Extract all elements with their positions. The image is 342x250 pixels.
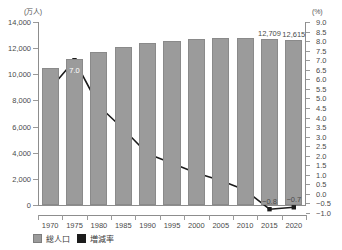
right-axis-tick-label: 6.0	[316, 75, 326, 84]
right-axis-tick-mark	[306, 32, 310, 33]
legend-label-population: 総人口	[46, 233, 70, 244]
right-axis-tick-mark	[306, 156, 310, 157]
left-axis-tick-label: 14,000	[8, 18, 31, 27]
left-axis-tick-mark	[33, 153, 38, 154]
bar-1970[interactable]	[42, 68, 59, 205]
legend-item-population: 総人口	[33, 233, 70, 244]
left-axis-tick-mark	[33, 100, 38, 101]
right-axis-tick-mark	[306, 127, 310, 128]
left-axis-tick-mark	[33, 205, 38, 206]
bar-2010[interactable]	[237, 38, 254, 205]
right-axis-tick-label: 2.5	[316, 142, 326, 151]
x-axis-label-2015: 2015	[261, 221, 278, 230]
x-axis-label-2010: 2010	[237, 221, 254, 230]
x-axis-tick-mark	[38, 215, 39, 220]
right-axis-tick-label: −1.0	[316, 209, 331, 218]
legend-swatch-population-icon	[33, 234, 42, 243]
x-axis-label-1995: 1995	[164, 221, 181, 230]
x-axis-tick-mark	[209, 215, 210, 220]
right-axis-tick-mark	[306, 98, 310, 99]
right-axis-tick-label: 8.5	[316, 27, 326, 36]
right-axis: 9.08.58.07.57.06.56.05.55.04.54.03.53.02…	[310, 0, 342, 250]
legend-label-rate: 増減率	[90, 233, 114, 244]
left-axis-tick-label: 6,000	[12, 122, 31, 131]
right-axis-tick-label: 3.0	[316, 132, 326, 141]
right-axis-tick-label: 1.5	[316, 161, 326, 170]
rate-value-label-2020: −0.7	[286, 195, 301, 204]
right-axis-tick-label: 4.5	[316, 103, 326, 112]
right-axis-tick-mark	[306, 79, 310, 80]
population-chart: (万人) (%) 14,00012,00010,0008,0006,0004,0…	[0, 0, 342, 250]
right-axis-tick-label: 4.0	[316, 113, 326, 122]
bar-1995[interactable]	[163, 41, 180, 205]
left-axis-tick-label: 12,000	[8, 44, 31, 53]
right-axis-tick-mark	[306, 70, 310, 71]
right-axis-tick-mark	[306, 89, 310, 90]
x-axis-label-2005: 2005	[212, 221, 229, 230]
x-axis-tick-mark	[87, 215, 88, 220]
right-axis-tick-label: −0.5	[316, 199, 331, 208]
x-axis-tick-mark	[233, 215, 234, 220]
legend-item-rate: 増減率	[77, 233, 114, 244]
x-axis-label-2020: 2020	[285, 221, 302, 230]
x-axis-tick-mark	[282, 215, 283, 220]
x-axis-label-2000: 2000	[188, 221, 205, 230]
right-axis-tick-mark	[306, 41, 310, 42]
right-axis-tick-mark	[306, 137, 310, 138]
rate-value-label-2015: −0.8	[262, 197, 277, 206]
right-axis-tick-label: 2.0	[316, 151, 326, 160]
rate-value-label-1975: 7.0	[69, 66, 79, 75]
right-axis-tick-mark	[306, 175, 310, 176]
left-axis-tick-label: 8,000	[12, 96, 31, 105]
bar-1990[interactable]	[139, 43, 156, 205]
bar-1975[interactable]	[66, 59, 83, 205]
right-axis-tick-mark	[306, 118, 310, 119]
left-axis: 14,00012,00010,0008,0006,0004,0002,0000	[0, 0, 34, 250]
left-axis-tick-mark	[33, 48, 38, 49]
right-axis-tick-mark	[306, 146, 310, 147]
x-axis-tick-mark	[111, 215, 112, 220]
right-axis-tick-label: 7.0	[316, 56, 326, 65]
bar-1985[interactable]	[115, 47, 132, 205]
right-axis-tick-mark	[306, 194, 310, 195]
x-axis-tick-mark	[184, 215, 185, 220]
left-axis-tick-label: 2,000	[12, 174, 31, 183]
bar-value-label-2020: 12,615	[282, 30, 305, 39]
right-axis-tick-mark	[306, 165, 310, 166]
left-axis-tick-mark	[33, 179, 38, 180]
legend: 総人口 増減率	[33, 233, 114, 244]
right-axis-tick-label: 0.0	[316, 189, 326, 198]
left-axis-tick-mark	[33, 127, 38, 128]
x-axis-tick-mark	[135, 215, 136, 220]
left-axis-tick-label: 4,000	[12, 148, 31, 157]
bar-2020[interactable]	[285, 40, 302, 205]
x-axis-tick-mark	[257, 215, 258, 220]
bar-2005[interactable]	[212, 38, 229, 205]
bar-2015[interactable]	[261, 39, 278, 205]
x-axis-label-1975: 1975	[66, 221, 83, 230]
bar-value-label-2015: 12,709	[258, 29, 281, 38]
right-axis-tick-mark	[306, 184, 310, 185]
bar-2000[interactable]	[188, 39, 205, 205]
right-axis-tick-label: 7.5	[316, 46, 326, 55]
right-axis-tick-label: 5.0	[316, 94, 326, 103]
right-axis-tick-mark	[306, 60, 310, 61]
x-axis-label-1980: 1980	[91, 221, 108, 230]
x-axis-tick-mark	[62, 215, 63, 220]
bar-1980[interactable]	[90, 52, 107, 205]
x-axis-label-1990: 1990	[139, 221, 156, 230]
left-axis-tick-mark	[33, 22, 38, 23]
right-axis-tick-label: 1.0	[316, 170, 326, 179]
right-axis-tick-label: 5.5	[316, 84, 326, 93]
right-axis-tick-label: 6.5	[316, 65, 326, 74]
right-axis-tick-label: 3.5	[316, 123, 326, 132]
right-axis-tick-label: 9.0	[316, 18, 326, 27]
x-axis-label-1970: 1970	[42, 221, 59, 230]
x-axis-tick-mark	[306, 215, 307, 220]
right-axis-tick-mark	[306, 108, 310, 109]
left-axis-tick-mark	[33, 74, 38, 75]
right-axis-tick-mark	[306, 213, 310, 214]
legend-swatch-rate-icon	[77, 234, 86, 243]
right-axis-tick-label: 0.5	[316, 180, 326, 189]
right-axis-tick-mark	[306, 22, 310, 23]
